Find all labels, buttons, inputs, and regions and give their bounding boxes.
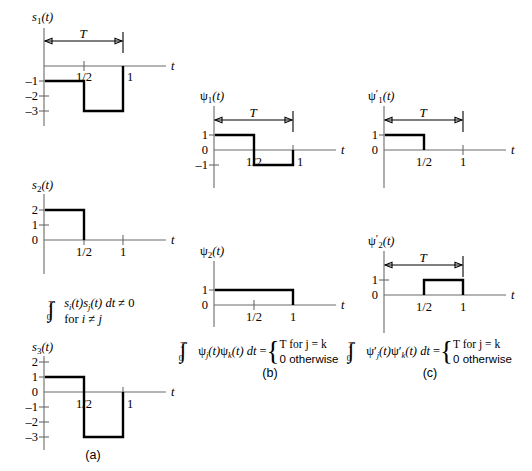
chart-s2-xlabel-one: 1 xyxy=(120,245,126,259)
chart-psi2-xlabel-one: 1 xyxy=(290,310,296,324)
chart-s1-ylabel--1: –1 xyxy=(25,74,39,88)
equation-psi-prime-brace: { xyxy=(440,336,453,366)
chart-psi1-ylabel-0: 0 xyxy=(202,143,208,157)
chart-psi2-prime-xlabel-one: 1 xyxy=(460,300,466,314)
panel-label-a: (a) xyxy=(78,448,108,462)
chart-psi1-prime-title: ψ′1(t) xyxy=(368,87,395,105)
chart-psi2: ψ2(t) t 1 0 1/2 1 xyxy=(188,243,358,333)
chart-s3-waveform xyxy=(45,377,123,437)
equation-psi-integrand: ψj(t)ψk(t) dt = xyxy=(198,344,266,360)
chart-s1: s1(t) t T –1 –2 –3 1/2 1 xyxy=(18,8,188,128)
chart-psi2-prime-ylabel-0: 0 xyxy=(372,288,378,302)
chart-s3-ylabel-0: 0 xyxy=(32,385,38,399)
chart-s3-title: s3(t) xyxy=(32,340,53,356)
chart-s1-duration-label: T xyxy=(79,26,87,41)
equation-psi-case-equal: T for j = k xyxy=(280,337,339,352)
chart-psi1-duration-label: T xyxy=(249,105,257,120)
integral-upper-limit-psi: T xyxy=(180,340,185,350)
chart-psi1-ylabel-1: 1 xyxy=(202,128,208,142)
chart-psi2-prime-xlabel-half: 1/2 xyxy=(416,300,432,314)
chart-psi2-title: ψ2(t) xyxy=(200,244,224,260)
chart-psi1-prime-waveform xyxy=(385,135,424,150)
chart-psi1-title: ψ1(t) xyxy=(200,89,224,105)
chart-psi2-ylabel-0: 0 xyxy=(202,298,208,312)
chart-psi1-prime-duration-label: T xyxy=(419,105,427,120)
chart-s2-ylabel-0: 0 xyxy=(32,233,38,247)
chart-psi1-prime-ylabel-1: 1 xyxy=(372,128,378,142)
equation-psi-brace: { xyxy=(267,336,280,366)
chart-psi1-prime-xlabel-one: 1 xyxy=(460,155,466,169)
chart-s2-xlabel-half: 1/2 xyxy=(76,245,92,259)
equation-signal-line2: for i ≠ j xyxy=(64,312,134,326)
chart-s1-ylabel--3: –3 xyxy=(25,104,39,118)
chart-psi2-prime-duration-label: T xyxy=(419,250,427,265)
chart-s3: s3(t) t 2 1 0 –1 –2 –3 1/2 1 xyxy=(18,340,188,455)
equation-psi-prime-orthonormality: ∫T0 ψ′j(t)ψ′k(t) dt ={ T for j = k 0 oth… xyxy=(348,336,512,367)
chart-psi1-ylabel--1: –1 xyxy=(195,158,209,172)
chart-s3-xlabel-one: 1 xyxy=(127,397,133,411)
chart-psi2-xlabel-half: 1/2 xyxy=(246,310,262,324)
chart-psi2-prime-title: ψ′2(t) xyxy=(368,232,395,250)
integral-lower-limit-signals: 0 xyxy=(47,312,51,322)
chart-s1-xlabel: t xyxy=(171,59,175,73)
panel-label-c: (c) xyxy=(415,366,445,380)
chart-s2-xlabel: t xyxy=(171,233,175,247)
integral-lower-limit-psi-prime: 0 xyxy=(347,353,351,363)
chart-s2-ylabel-1: 1 xyxy=(32,218,38,232)
chart-s3-ylabel-2: 2 xyxy=(32,355,38,369)
chart-s2-ylabel-2: 2 xyxy=(32,203,38,217)
equation-psi-orthonormality: ∫T0 ψj(t)ψk(t) dt ={ T for j = k 0 other… xyxy=(180,336,338,367)
integral-upper-limit-psi-prime: T xyxy=(348,340,353,350)
equation-signal-orthogonality: ∫T0 si(t)sj(t) dt ≠ 0 for i ≠ j xyxy=(48,295,134,326)
equation-psi-prime-case-other: 0 otherwise xyxy=(453,352,512,367)
chart-psi1-xlabel: t xyxy=(341,143,345,157)
chart-psi1-xlabel-one: 1 xyxy=(297,155,303,169)
chart-s2-title: s2(t) xyxy=(32,178,53,194)
chart-psi2-prime-xlabel: t xyxy=(511,288,515,302)
chart-s3-ylabel--3: –3 xyxy=(25,430,39,444)
equation-psi-case-other: 0 otherwise xyxy=(280,352,339,367)
chart-s3-ylabel--1: –1 xyxy=(25,400,39,414)
chart-psi2-prime: ψ′2(t) t T 1 0 1/2 1 xyxy=(358,233,528,338)
chart-s2: s2(t) t 2 1 0 1/2 1 xyxy=(18,178,188,278)
chart-psi1-prime-ylabel-0: 0 xyxy=(372,143,378,157)
chart-s2-waveform xyxy=(45,210,84,240)
equation-psi-prime-integrand: ψ′j(t)ψ′k(t) dt = xyxy=(366,344,440,360)
chart-s1-xlabel-one: 1 xyxy=(127,70,133,84)
chart-s1-title: s1(t) xyxy=(32,10,53,26)
chart-s3-ylabel-1: 1 xyxy=(32,370,38,384)
integral-upper-limit-signals: T xyxy=(48,299,53,309)
chart-s3-xlabel: t xyxy=(171,385,175,399)
chart-psi1-prime: ψ′1(t) t T 1 0 1/2 1 xyxy=(358,88,528,193)
equation-signal-line1: si(t)sj(t) dt ≠ 0 xyxy=(64,296,134,312)
panel-label-b: (b) xyxy=(255,366,285,380)
chart-psi2-ylabel-1: 1 xyxy=(202,283,208,297)
chart-psi2-prime-waveform xyxy=(424,280,463,295)
chart-s3-ylabel--2: –2 xyxy=(25,415,39,429)
chart-psi1: ψ1(t) t T 1 0 –1 1/2 1 xyxy=(188,88,358,193)
chart-psi1-prime-xlabel-half: 1/2 xyxy=(416,155,432,169)
chart-s1-ylabel--2: –2 xyxy=(25,89,39,103)
chart-psi1-prime-xlabel: t xyxy=(511,143,515,157)
integral-lower-limit-psi: 0 xyxy=(179,353,183,363)
chart-psi2-prime-ylabel-1: 1 xyxy=(372,273,378,287)
chart-psi2-xlabel: t xyxy=(341,298,345,312)
equation-psi-prime-case-equal: T for j = k xyxy=(453,337,512,352)
